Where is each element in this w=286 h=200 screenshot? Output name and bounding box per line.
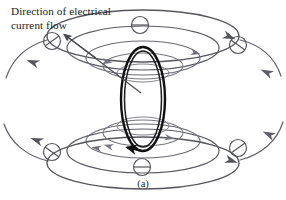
figure-caption: (a) bbox=[0, 178, 286, 189]
figure-root: Direction of electrical current flow (a) bbox=[0, 0, 286, 200]
direction-label: Direction of electrical current flow bbox=[11, 5, 161, 32]
